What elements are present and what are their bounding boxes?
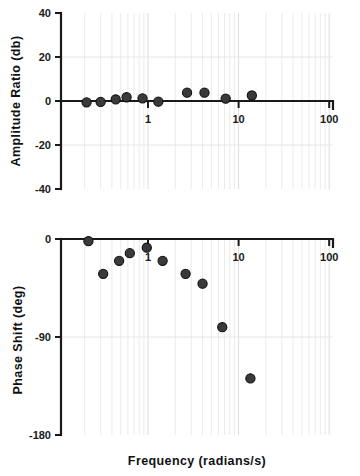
amplitude-x-tick-label: 1 bbox=[145, 113, 151, 125]
amplitude-data-points bbox=[82, 88, 256, 107]
phase-y-tick-label: -180 bbox=[29, 429, 51, 441]
amplitude-data-point bbox=[96, 97, 105, 106]
amplitude-x-tick-label: 10 bbox=[232, 113, 244, 125]
amplitude-y-tick-label: -20 bbox=[35, 139, 51, 151]
amplitude-data-point bbox=[200, 88, 209, 97]
amplitude-y-tick-label: 20 bbox=[39, 51, 51, 63]
phase-x-tick-label: 10 bbox=[232, 251, 244, 263]
phase-x-tick-label: 100 bbox=[320, 251, 338, 263]
amplitude-data-point bbox=[138, 94, 147, 103]
phase-data-point bbox=[84, 237, 93, 246]
phase-y-axis-title: Phase Shift (deg) bbox=[11, 286, 25, 395]
amplitude-y-tick-label: 0 bbox=[45, 95, 51, 107]
amplitude-data-point bbox=[111, 95, 120, 104]
phase-data-point bbox=[158, 256, 167, 265]
phase-data-points bbox=[84, 237, 255, 383]
bode-plot-figure: 40200-20-40 110100 Amplitude Ratio (db) … bbox=[0, 0, 360, 476]
amplitude-data-point bbox=[247, 91, 256, 100]
phase-y-tick-label: -90 bbox=[35, 331, 51, 343]
phase-data-point bbox=[115, 256, 124, 265]
phase-chart: 0-90-180 110100 Phase Shift (deg) Freque… bbox=[11, 233, 338, 468]
phase-data-point bbox=[125, 249, 134, 258]
amplitude-data-point bbox=[154, 97, 163, 106]
phase-x-tick-label: 1 bbox=[145, 251, 151, 263]
amplitude-y-tick-label: 40 bbox=[39, 7, 51, 19]
phase-data-point bbox=[218, 323, 227, 332]
phase-x-axis bbox=[61, 239, 333, 247]
amplitude-data-point bbox=[182, 88, 191, 97]
amplitude-y-axis-title: Amplitude Ratio (db) bbox=[9, 36, 23, 167]
bode-plot-svg: 40200-20-40 110100 Amplitude Ratio (db) … bbox=[0, 0, 360, 476]
phase-data-point bbox=[142, 243, 151, 252]
amplitude-x-tick-label: 100 bbox=[320, 113, 338, 125]
phase-data-point bbox=[181, 269, 190, 278]
phase-y-tick-label: 0 bbox=[45, 233, 51, 245]
phase-data-point bbox=[246, 374, 255, 383]
phase-data-point bbox=[99, 269, 108, 278]
amplitude-y-tick-labels: 40200-20-40 bbox=[35, 7, 51, 195]
x-axis-title: Frequency (radians/s) bbox=[128, 454, 266, 468]
phase-data-point bbox=[198, 279, 207, 288]
amplitude-data-point bbox=[82, 98, 91, 107]
amplitude-chart: 40200-20-40 110100 Amplitude Ratio (db) bbox=[9, 7, 338, 195]
amplitude-data-point bbox=[221, 94, 230, 103]
amplitude-data-point bbox=[122, 93, 131, 102]
phase-y-tick-labels: 0-90-180 bbox=[29, 233, 51, 441]
amplitude-y-tick-label: -40 bbox=[35, 183, 51, 195]
